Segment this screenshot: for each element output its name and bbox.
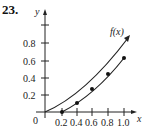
x-tick-label: 0.8 xyxy=(101,117,114,128)
fx-curve-arrow-icon xyxy=(124,35,130,42)
x-tick-label: 0.4 xyxy=(70,117,83,128)
fx-curve xyxy=(45,38,128,112)
y-tick-label: 0.8 xyxy=(23,38,36,49)
y-tick-label: 0.6 xyxy=(23,56,36,67)
points-curve xyxy=(62,58,124,112)
chart: y x 0 0.2 0.4 0.6 0.8 0.2 0.4 0.6 0.8 1.… xyxy=(0,0,143,129)
y-tick-label: 0.2 xyxy=(23,90,36,101)
fx-label: f(x) xyxy=(110,26,125,38)
y-axis-arrow-icon xyxy=(43,9,47,15)
x-tick-label: 0.6 xyxy=(85,117,98,128)
data-points xyxy=(60,56,126,114)
origin-label: 0 xyxy=(33,115,38,126)
x-axis-label: x xyxy=(136,113,142,124)
y-tick-label: 0.4 xyxy=(23,73,36,84)
x-tick-label: 1.0 xyxy=(117,117,130,128)
x-tick-label: 0.2 xyxy=(55,117,68,128)
y-axis-label: y xyxy=(34,6,40,17)
